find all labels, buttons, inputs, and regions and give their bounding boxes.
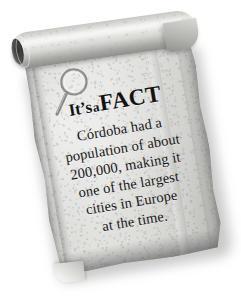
card-content: It’saFACT Córdoba had a population of ab… (21, 35, 226, 276)
fact-body-text: Córdoba had a population of about 200,00… (37, 107, 217, 244)
scroll-graphic: It’saFACT Córdoba had a population of ab… (8, 0, 235, 289)
headline-fact: FACT (98, 81, 163, 116)
headline-its: It’s (67, 97, 93, 120)
fact-card-scroll: It’saFACT Córdoba had a population of ab… (0, 0, 241, 298)
